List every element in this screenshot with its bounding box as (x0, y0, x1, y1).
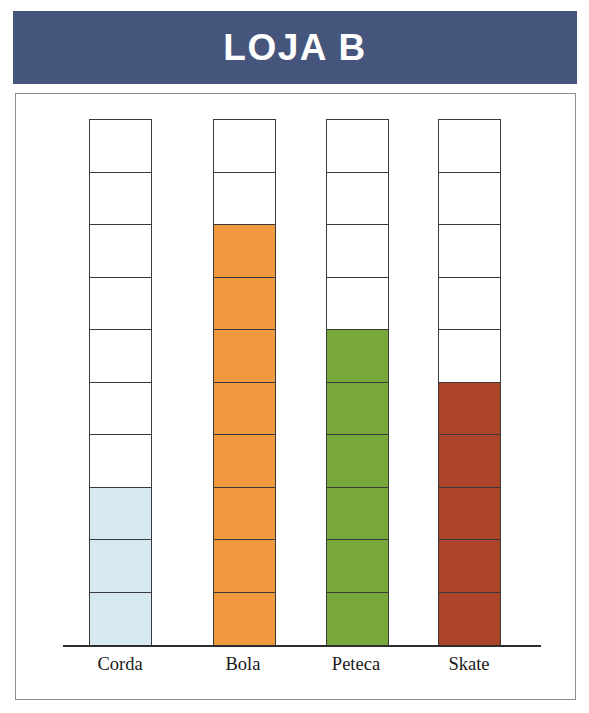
unit-cell-filled (213, 329, 276, 383)
x-axis-label-corda: Corda (60, 654, 180, 675)
unit-cell-filled (89, 539, 152, 593)
unit-cell-empty (326, 119, 389, 173)
unit-cell-empty (438, 172, 501, 226)
unit-cell-filled (326, 434, 389, 488)
unit-cell-filled (438, 592, 501, 646)
unit-cell-empty (438, 329, 501, 383)
unit-cell-stack (326, 119, 389, 646)
bar-column-corda[interactable] (89, 119, 152, 646)
x-axis-baseline (63, 645, 541, 647)
chart-frame: CordaBolaPetecaSkate (15, 93, 576, 700)
x-axis-label-skate: Skate (409, 654, 529, 675)
unit-cell-filled (213, 487, 276, 541)
page-title: LOJA B (223, 29, 366, 66)
unit-cell-filled (89, 487, 152, 541)
unit-cell-empty (89, 224, 152, 278)
unit-cell-filled (213, 539, 276, 593)
plot-area: CordaBolaPetecaSkate (16, 94, 575, 699)
unit-cell-empty (213, 172, 276, 226)
unit-cell-filled (213, 434, 276, 488)
bar-column-skate[interactable] (438, 119, 501, 646)
bar-column-peteca[interactable] (326, 119, 389, 646)
unit-cell-empty (438, 224, 501, 278)
x-axis-label-bola: Bola (183, 654, 303, 675)
unit-cell-empty (438, 277, 501, 331)
unit-cell-empty (89, 382, 152, 436)
unit-cell-filled (213, 592, 276, 646)
unit-cell-filled (213, 382, 276, 436)
unit-cell-filled (438, 539, 501, 593)
unit-cell-filled (326, 487, 389, 541)
unit-cell-empty (89, 119, 152, 173)
unit-cell-filled (89, 592, 152, 646)
unit-cell-filled (326, 592, 389, 646)
unit-cell-empty (89, 172, 152, 226)
unit-cell-empty (89, 434, 152, 488)
unit-cell-empty (326, 172, 389, 226)
unit-cell-empty (438, 119, 501, 173)
unit-cell-empty (326, 224, 389, 278)
unit-cell-filled (326, 329, 389, 383)
bar-column-bola[interactable] (213, 119, 276, 646)
unit-cell-empty (89, 329, 152, 383)
unit-cell-filled (438, 382, 501, 436)
x-axis-label-peteca: Peteca (296, 654, 416, 675)
unit-cell-filled (326, 539, 389, 593)
chart-title-banner: LOJA B (13, 11, 577, 84)
unit-cell-stack (213, 119, 276, 646)
unit-cell-stack (438, 119, 501, 646)
unit-cell-empty (213, 119, 276, 173)
unit-cell-filled (326, 382, 389, 436)
unit-cell-filled (438, 434, 501, 488)
unit-cell-stack (89, 119, 152, 646)
unit-cell-filled (213, 224, 276, 278)
unit-cell-empty (89, 277, 152, 331)
unit-cell-empty (326, 277, 389, 331)
unit-cell-filled (438, 487, 501, 541)
unit-cell-filled (213, 277, 276, 331)
